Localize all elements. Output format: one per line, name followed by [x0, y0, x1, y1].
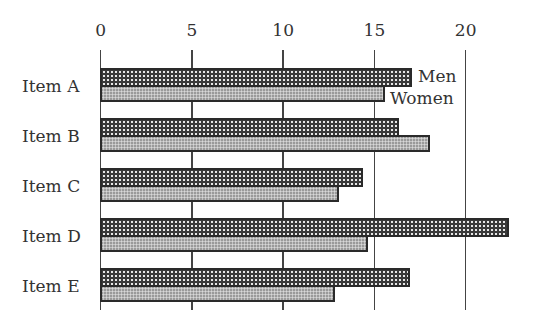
category-label: Item D: [22, 226, 81, 246]
category-label: Item B: [22, 126, 80, 146]
bar-women: [100, 285, 335, 302]
bar-women: [100, 185, 339, 202]
horizontal-bar-chart: 05101520Item AItem BItem CItem DItem EMe…: [0, 0, 539, 335]
legend-women: Women: [390, 88, 454, 108]
bar-women: [100, 85, 385, 102]
x-tick-label: 0: [95, 20, 106, 40]
legend-men: Men: [418, 66, 456, 86]
x-tick-label: 20: [455, 20, 477, 40]
category-label: Item C: [22, 176, 80, 196]
category-label: Item E: [22, 276, 80, 296]
category-label: Item A: [22, 76, 79, 96]
x-tick-label: 15: [364, 20, 386, 40]
bar-women: [100, 135, 430, 152]
x-tick-label: 5: [187, 20, 198, 40]
x-tick-label: 10: [272, 20, 294, 40]
bar-women: [100, 235, 368, 252]
gridline: [465, 50, 467, 310]
